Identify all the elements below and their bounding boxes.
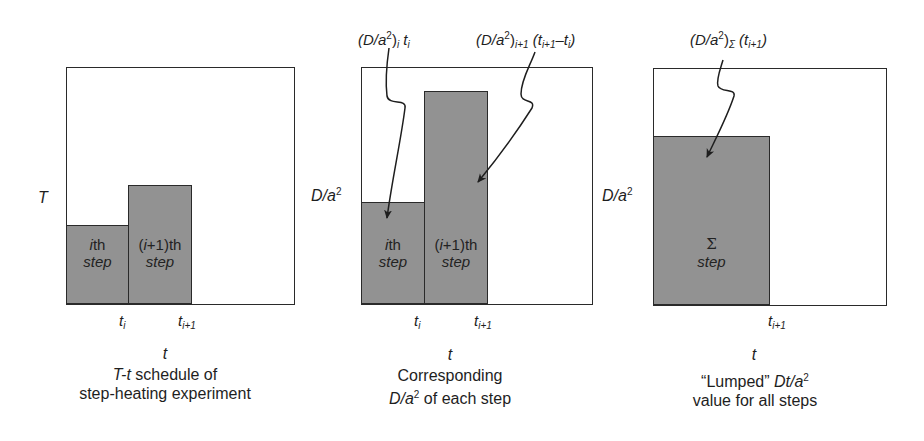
annotation-arrows xyxy=(0,0,924,441)
arrow-to-ith-step xyxy=(386,48,405,218)
arrow-to-sigma-step xyxy=(707,60,734,157)
arrow-to-i-plus-1th-step xyxy=(478,52,535,182)
